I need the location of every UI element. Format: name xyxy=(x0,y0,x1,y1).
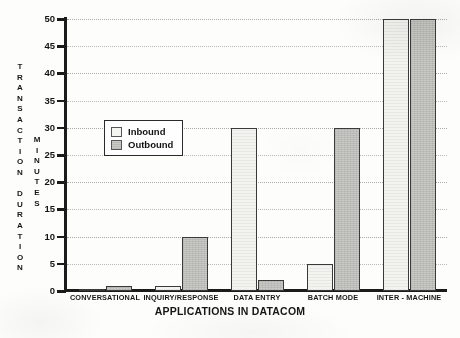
x-axis-category-label: DATA ENTRY xyxy=(219,293,295,302)
y-axis-tick: 30 xyxy=(0,123,67,133)
chart-legend: Inbound Outbound xyxy=(104,120,183,156)
y-axis-tick-label: 45 xyxy=(44,41,55,51)
y-axis-tick-label: 30 xyxy=(44,123,55,133)
y-axis-tick: 20 xyxy=(0,177,67,187)
y-axis-tick: 25 xyxy=(0,150,67,160)
y-axis-tick-label: 10 xyxy=(44,232,55,242)
y-axis-tick: 15 xyxy=(0,204,67,214)
y-axis-tick: 0 xyxy=(0,286,67,296)
y-axis-tick: 45 xyxy=(0,41,67,51)
y-axis-tick: 5 xyxy=(0,259,67,269)
bar-inbound xyxy=(155,286,181,291)
x-axis-category-label: CONVERSATIONAL xyxy=(67,293,143,302)
bar-group xyxy=(219,19,295,291)
legend-label-outbound: Outbound xyxy=(128,139,173,150)
y-axis-tick-label: 40 xyxy=(44,68,55,78)
y-axis-tick-label: 15 xyxy=(44,204,55,214)
y-axis-tick-label: 25 xyxy=(44,150,55,160)
legend-swatch-inbound-icon xyxy=(111,127,122,137)
y-axis-tick-label: 0 xyxy=(50,286,55,296)
bar-inbound xyxy=(231,128,257,291)
y-axis-tick: 35 xyxy=(0,96,67,106)
y-axis-tick: 40 xyxy=(0,68,67,78)
bar-inbound xyxy=(383,19,409,291)
y-axis-tick-label: 50 xyxy=(44,14,55,24)
bar-group xyxy=(371,19,447,291)
legend-item-inbound: Inbound xyxy=(111,125,173,138)
legend-swatch-outbound-icon xyxy=(111,140,122,150)
bar-chart-figure: T R A N S A C T I O N D U R A T I O N M … xyxy=(0,0,460,338)
bar-group xyxy=(295,19,371,291)
y-axis-tick: 50 xyxy=(0,14,67,24)
x-axis-category-label: BATCH MODE xyxy=(295,293,371,302)
bar-outbound xyxy=(410,19,436,291)
bar-inbound xyxy=(307,264,333,291)
x-axis-category-label: INTER - MACHINE xyxy=(371,293,447,302)
y-axis-title-minutes: M I N U T E S xyxy=(31,135,43,209)
y-axis-title-transaction-duration: T R A N S A C T I O N D U R A T I O N xyxy=(14,62,26,274)
bar-outbound xyxy=(106,286,132,291)
bar-outbound xyxy=(258,280,284,291)
bar-outbound xyxy=(182,237,208,291)
x-axis-title: APPLICATIONS IN DATACOM xyxy=(0,305,460,317)
legend-item-outbound: Outbound xyxy=(111,138,173,151)
y-axis-tick: 10 xyxy=(0,232,67,242)
bar-inbound xyxy=(79,289,105,291)
y-axis-tick-label: 35 xyxy=(44,96,55,106)
x-axis-category-label: INQUIRY/RESPONSE xyxy=(143,293,219,302)
y-axis-tick-label: 5 xyxy=(50,259,55,269)
legend-label-inbound: Inbound xyxy=(128,126,165,137)
y-axis-tick-label: 20 xyxy=(44,177,55,187)
bar-outbound xyxy=(334,128,360,291)
